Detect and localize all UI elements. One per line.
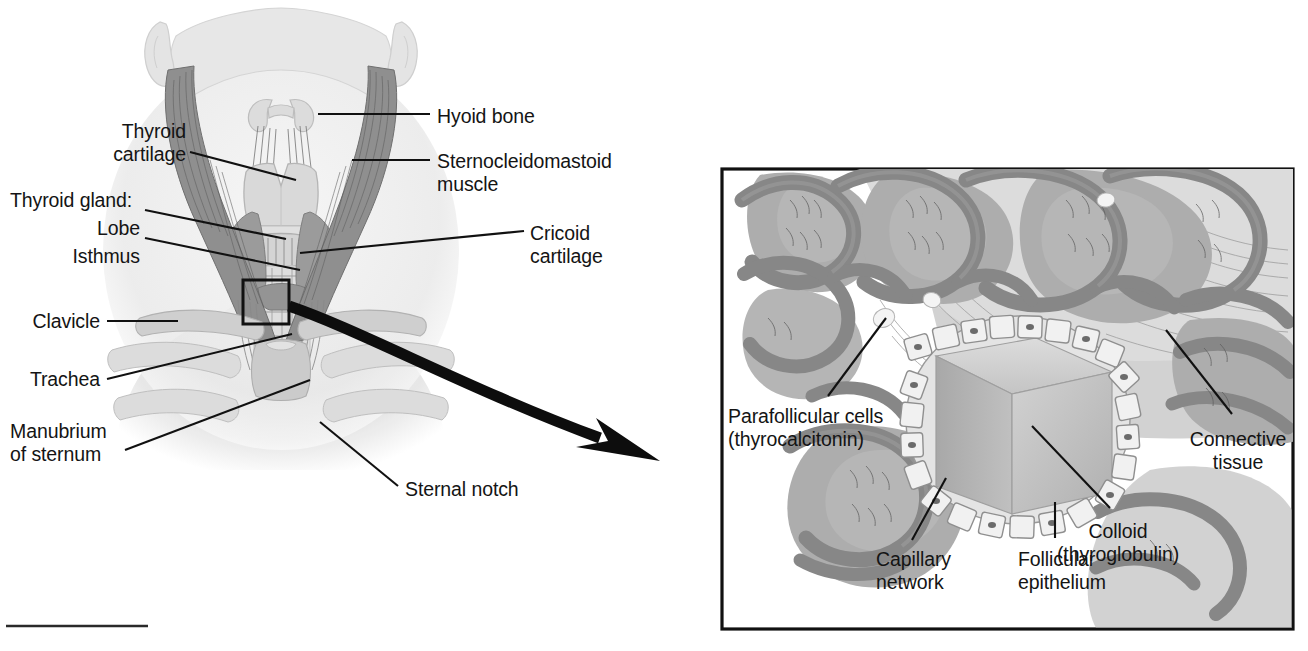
label-lobe: Lobe: [0, 217, 140, 240]
thyroid-anatomy-figure: Thyroid cartilage Thyroid gland: Lobe Is…: [0, 0, 1308, 651]
label-connective-tissue: Connective tissue: [1178, 428, 1298, 473]
label-sternal-notch: Sternal notch: [405, 478, 519, 501]
label-thyroid-gland-heading: Thyroid gland:: [10, 189, 132, 212]
central-follicle: [900, 315, 1142, 538]
thyroid-histology-inset: [722, 169, 1300, 629]
anterior-neck-illustration: [103, 8, 524, 486]
colloid-shape: [936, 338, 1112, 514]
label-trachea: Trachea: [0, 368, 100, 391]
label-colloid-thyroglobulin: Colloid (thyroglobulin): [1028, 520, 1208, 565]
label-sternocleidomastoid-muscle: Sternocleidomastoid muscle: [437, 150, 612, 195]
label-hyoid-bone: Hyoid bone: [437, 105, 535, 128]
label-clavicle: Clavicle: [0, 310, 100, 333]
label-thyroid-cartilage: Thyroid cartilage: [0, 120, 186, 165]
sternal-notch-shape: [266, 341, 296, 350]
label-manubrium-of-sternum: Manubrium of sternum: [10, 420, 107, 465]
label-parafollicular-cells: Parafollicular cells (thyrocalcitonin): [728, 405, 883, 450]
label-isthmus: Isthmus: [0, 245, 140, 268]
label-capillary-network: Capillary network: [876, 548, 951, 593]
label-cricoid-cartilage: Cricoid cartilage: [530, 222, 603, 267]
